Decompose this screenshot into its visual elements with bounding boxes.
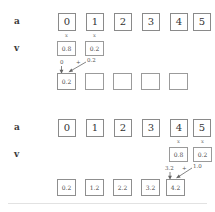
annotation-left-term-bottom: 3.2 bbox=[165, 166, 174, 172]
annotation-left-term-top: 0 bbox=[60, 60, 64, 66]
array-cell-a-1-bottom: 1 bbox=[86, 119, 104, 137]
array-cell-out-3-bottom: 3.2 bbox=[141, 179, 160, 196]
diagram-panel-top: a v 0 1 2 3 4 5 x x 0.8 0.2 0 + 0.2 0.2 bbox=[0, 0, 215, 106]
array-cell-out-2-top bbox=[113, 73, 132, 90]
bottom-divider bbox=[8, 203, 207, 204]
array-cell-a-4-bottom: 4 bbox=[170, 119, 188, 137]
array-cell-out-1-top bbox=[85, 73, 104, 90]
row-label-v-top: v bbox=[14, 44, 19, 53]
annotation-right-term-top: 0.2 bbox=[87, 58, 96, 64]
array-cell-v-0-bottom: 0.8 bbox=[169, 147, 188, 162]
array-cell-a-2-top: 2 bbox=[114, 13, 132, 31]
diagram-panel-bottom: a v 0 1 2 3 4 5 x x 0.8 0.2 3.2 + 1.0 0.… bbox=[0, 106, 215, 212]
array-cell-out-4-bottom: 4.2 bbox=[166, 179, 185, 196]
array-cell-a-0-bottom: 0 bbox=[58, 119, 76, 137]
array-cell-v-0-top: 0.8 bbox=[57, 41, 76, 56]
array-cell-out-3-top bbox=[141, 73, 160, 90]
array-cell-out-2-bottom: 2.2 bbox=[113, 179, 132, 196]
x-marker-1-top: x bbox=[85, 33, 104, 38]
array-cell-a-5-bottom: 5 bbox=[193, 119, 211, 137]
array-cell-out-4-top bbox=[169, 73, 188, 90]
array-cell-out-0-bottom: 0.2 bbox=[57, 179, 76, 196]
array-cell-a-5-top: 5 bbox=[193, 13, 211, 31]
array-cell-a-3-top: 3 bbox=[142, 13, 160, 31]
array-cell-v-1-top: 0.2 bbox=[85, 41, 104, 56]
array-cell-out-1-bottom: 1.2 bbox=[85, 179, 104, 196]
array-cell-out-0-top: 0.2 bbox=[57, 73, 76, 90]
x-marker-0-top: x bbox=[57, 33, 76, 38]
annotation-operator-bottom: + bbox=[182, 166, 187, 172]
array-cell-a-0-top: 0 bbox=[58, 13, 76, 31]
array-cell-a-4-top: 4 bbox=[170, 13, 188, 31]
x-marker-1-bottom: x bbox=[193, 139, 212, 144]
row-label-v-bottom: v bbox=[14, 150, 19, 159]
array-cell-v-1-bottom: 0.2 bbox=[193, 147, 212, 162]
array-cell-a-3-bottom: 3 bbox=[142, 119, 160, 137]
annotation-right-term-bottom: 1.0 bbox=[193, 164, 202, 170]
array-cell-a-1-top: 1 bbox=[86, 13, 104, 31]
row-label-a-bottom: a bbox=[14, 123, 20, 132]
annotation-operator-top: + bbox=[76, 60, 81, 66]
row-label-a-top: a bbox=[14, 17, 20, 26]
x-marker-0-bottom: x bbox=[169, 139, 188, 144]
array-cell-a-2-bottom: 2 bbox=[114, 119, 132, 137]
